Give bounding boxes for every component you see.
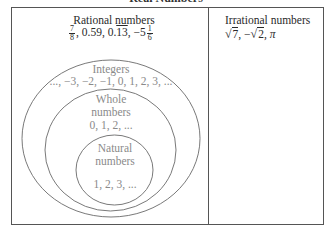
- mixed-number: −516: [134, 26, 154, 38]
- pi-symbol: π: [270, 28, 276, 40]
- irrational-numbers-label: Irrational numbers: [225, 14, 310, 27]
- decimal-value: 0.59: [82, 26, 102, 38]
- fraction-seven-eighths: 78: [69, 25, 75, 42]
- whole-numbers-label-line1: Whole: [71, 93, 151, 106]
- sqrt-icon: √: [225, 27, 232, 41]
- venn-diagram: [0, 0, 332, 236]
- real-numbers-box: [12, 8, 324, 225]
- sqrt-seven: √7: [225, 28, 238, 40]
- irrational-numbers-examples: √7, −√2, π: [225, 28, 275, 41]
- rational-numbers-examples: 78, 0.59, 0.13, −516: [68, 25, 154, 42]
- whole-numbers-label-line2: numbers: [71, 106, 151, 119]
- natural-numbers-label-line1: Natural: [75, 142, 155, 155]
- natural-numbers-label-line2: numbers: [75, 155, 155, 168]
- whole-numbers-examples: 0, 1, 2, ...: [71, 119, 151, 132]
- repeating-decimal: 0.13: [108, 26, 128, 38]
- integers-examples: ..., −3, −2, −1, 0, 1, 2, 3, ...: [31, 75, 191, 88]
- neg-sqrt-two: −√2: [244, 28, 264, 40]
- natural-numbers-examples: 1, 2, 3, ...: [75, 178, 155, 191]
